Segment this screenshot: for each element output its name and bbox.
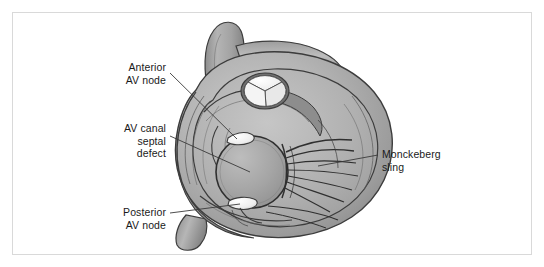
posterior-av-node — [228, 197, 257, 209]
aortic-valve-cusps — [241, 73, 289, 109]
label-anterior-av-node: Anterior AV node — [74, 61, 166, 86]
great-vessel-inferior-left — [176, 215, 207, 250]
figure-root: Anterior AV node AV canal septal defect … — [0, 0, 544, 267]
av-canal-septal-defect — [216, 136, 288, 208]
label-posterior-av-node: Posterior AV node — [66, 206, 166, 231]
label-monckeberg-sling: Monckeberg sling — [382, 148, 492, 173]
label-av-canal-septal-defect: AV canal septal defect — [62, 122, 166, 160]
